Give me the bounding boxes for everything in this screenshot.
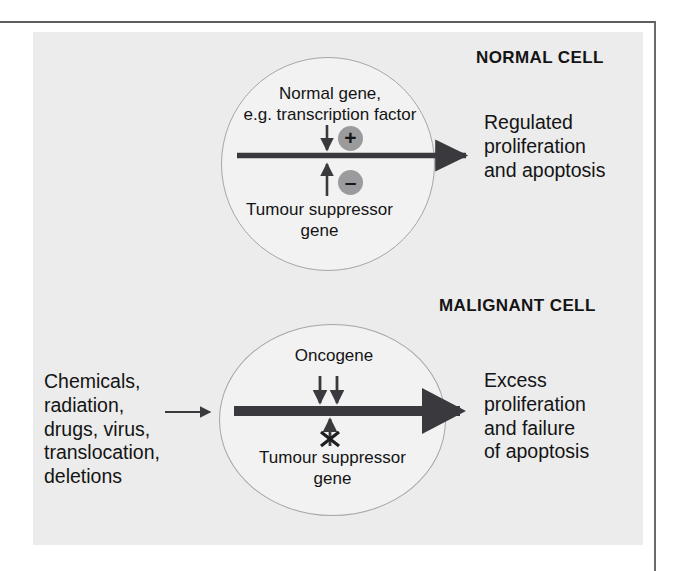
negative-regulation-badge: – [338, 170, 363, 195]
normal-gene-label: Normal gene, e.g. transcription factor [232, 84, 428, 125]
oncogene-label: Oncogene [264, 346, 404, 367]
positive-regulation-badge: + [338, 126, 363, 151]
normal-cell-heading: NORMAL CELL [476, 48, 604, 69]
normal-cell-outcome: Regulated proliferation and apoptosis [484, 111, 605, 182]
malignant-cell-outcome: Excess proliferation and failure of apop… [484, 369, 589, 464]
malignant-suppressor-label: Tumour suppressor gene [236, 448, 429, 489]
normal-suppressor-label: Tumour suppressor gene [223, 200, 416, 241]
malignant-cell-heading: MALIGNANT CELL [439, 296, 596, 317]
page-top-rule [0, 21, 656, 23]
page-right-rule [654, 21, 656, 571]
carcinogen-inputs-label: Chemicals, radiation, drugs, virus, tran… [44, 370, 160, 489]
